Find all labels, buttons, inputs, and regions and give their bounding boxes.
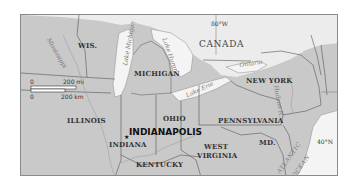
map-frame: ★ CANADA WIS. MICHIGAN NEW YORK ILLINOIS… <box>20 14 338 176</box>
label-ohio: OHIO <box>163 115 186 122</box>
scale-200-mi: 200 mi <box>63 79 84 85</box>
label-virginia: VIRGINIA <box>197 152 237 159</box>
scale-200-km: 200 km <box>61 94 84 100</box>
label-40n: 40°N <box>317 139 333 145</box>
label-west: WEST <box>204 143 228 150</box>
label-indiana: INDIANA <box>109 141 147 148</box>
label-pennsylvania: PENNSYLVANIA <box>218 117 283 124</box>
label-canada: CANADA <box>199 40 244 49</box>
label-new-york: NEW YORK <box>246 77 293 84</box>
label-maryland: MD. <box>259 139 276 146</box>
label-illinois: ILLINOIS <box>67 117 106 124</box>
label-indianapolis: INDIANAPOLIS <box>129 128 202 137</box>
label-kentucky: KENTUCKY <box>136 161 183 168</box>
label-80w: 80°W <box>211 21 228 27</box>
label-wisconsin: WIS. <box>78 42 97 49</box>
scale-zero-km: 0 <box>30 94 34 100</box>
scale-zero-mi: 0 <box>30 79 34 85</box>
